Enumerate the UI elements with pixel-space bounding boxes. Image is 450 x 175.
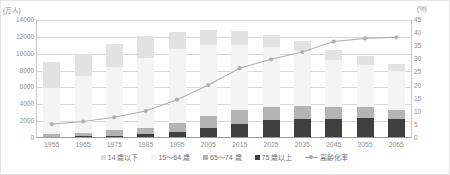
- plot-area: 02000400060008000100001200014000 0510152…: [36, 20, 412, 138]
- bar-column: [231, 31, 248, 138]
- bar-column: [388, 64, 405, 138]
- legend-75-over[interactable]: 75 歳以上: [255, 152, 293, 162]
- x-tick-label: 1955: [35, 141, 69, 148]
- x-tick-label: 2055: [348, 141, 382, 148]
- legend-under-14[interactable]: 14 歳以下: [101, 152, 139, 162]
- x-axis-baseline: [36, 137, 412, 138]
- bar-segment-15-64: [106, 67, 123, 131]
- bar-segment-65-74: [169, 123, 186, 132]
- right-tick-label: 30: [414, 55, 444, 62]
- bar-segment-75-over: [388, 119, 405, 138]
- bar-segment-15-64: [357, 65, 374, 107]
- bar-segment-65-74: [325, 107, 342, 119]
- bar-segment-75-over: [263, 120, 280, 138]
- legend-15-64[interactable]: 15〜64 歳: [151, 152, 190, 162]
- x-tick-label: 1985: [129, 141, 163, 148]
- left-tick-label: 8000: [2, 67, 34, 74]
- bar-segment-15-64: [388, 71, 405, 109]
- bar-column: [75, 54, 92, 138]
- left-tick-label: 2000: [2, 117, 34, 124]
- legend-65-74[interactable]: 65〜74 歳: [203, 152, 242, 162]
- x-tick-label: 2015: [223, 141, 257, 148]
- bar-segment-under-14: [294, 41, 311, 52]
- bar-segment-65-74: [357, 107, 374, 118]
- right-tick-label: 15: [414, 95, 444, 102]
- bar-segment-65-74: [231, 110, 248, 125]
- bar-segment-under-14: [263, 35, 280, 47]
- bar-segment-75-over: [357, 118, 374, 138]
- bar-segment-15-64: [294, 51, 311, 106]
- bar-segment-under-14: [43, 62, 60, 87]
- bar-segment-15-64: [231, 45, 248, 110]
- bar-segment-65-74: [200, 116, 217, 128]
- y-axis-left-spine: [36, 20, 37, 138]
- left-tick-label: 0: [2, 134, 34, 141]
- bar-column: [137, 36, 154, 138]
- x-tick-label: 2065: [379, 141, 413, 148]
- bar-segment-under-14: [169, 32, 186, 49]
- legend-label: 75 歳以上: [262, 152, 293, 162]
- bar-column: [263, 35, 280, 138]
- x-tick-label: 2005: [191, 141, 225, 148]
- right-tick-label: 25: [414, 68, 444, 75]
- bar-segment-under-14: [388, 64, 405, 72]
- bar-segment-under-14: [325, 50, 342, 60]
- right-tick-label: 45: [414, 16, 444, 23]
- legend-swatch-icon: [203, 155, 208, 160]
- bar-segment-under-14: [106, 44, 123, 67]
- legend-swatch-icon: [151, 155, 156, 160]
- bar-segment-75-over: [294, 119, 311, 138]
- bar-segment-75-over: [231, 124, 248, 138]
- right-tick-label: 35: [414, 42, 444, 49]
- bar-segment-15-64: [169, 49, 186, 123]
- right-tick-label: 0: [414, 134, 444, 141]
- left-tick-label: 14000: [2, 16, 34, 23]
- left-tick-label: 6000: [2, 83, 34, 90]
- legend-label: 高齢化率: [320, 152, 348, 162]
- bar-segment-65-74: [388, 110, 405, 120]
- gridline: [36, 20, 412, 21]
- bar-segment-15-64: [137, 58, 154, 128]
- bar-column: [294, 41, 311, 138]
- left-tick-label: 4000: [2, 100, 34, 107]
- bar-segment-under-14: [75, 54, 92, 76]
- bar-column: [357, 56, 374, 138]
- bar-segment-65-74: [294, 106, 311, 119]
- x-tick-label: 2025: [254, 141, 288, 148]
- legend-line-marker-icon: [305, 155, 318, 160]
- legend-swatch-icon: [101, 155, 106, 160]
- bar-segment-under-14: [137, 36, 154, 58]
- bar-segment-15-64: [325, 60, 342, 107]
- gridline: [36, 37, 412, 38]
- bar-column: [43, 62, 60, 138]
- bar-column: [169, 32, 186, 138]
- bar-segment-under-14: [357, 56, 374, 65]
- right-tick-label: 5: [414, 121, 444, 128]
- right-tick-label: 40: [414, 29, 444, 36]
- legend-swatch-icon: [255, 155, 260, 160]
- legend-label: 15〜64 歳: [158, 152, 190, 162]
- gridline: [36, 54, 412, 55]
- bar-column: [106, 44, 123, 138]
- left-tick-label: 10000: [2, 50, 34, 57]
- bar-segment-15-64: [200, 45, 217, 116]
- chart-legend: 14 歳以下15〜64 歳65〜74 歳75 歳以上高齢化率: [0, 152, 449, 162]
- left-tick-label: 12000: [2, 33, 34, 40]
- bar-segment-15-64: [263, 47, 280, 107]
- bar-column: [200, 30, 217, 138]
- x-tick-label: 2045: [317, 141, 351, 148]
- bar-segment-under-14: [231, 31, 248, 44]
- legend-label: 14 歳以下: [108, 152, 139, 162]
- right-tick-label: 10: [414, 108, 444, 115]
- bar-segment-65-74: [263, 107, 280, 120]
- left-axis-unit-label: (万人): [3, 5, 21, 15]
- x-tick-label: 1995: [160, 141, 194, 148]
- legend-label: 65〜74 歳: [210, 152, 242, 162]
- x-tick-label: 1965: [66, 141, 100, 148]
- bar-segment-15-64: [75, 76, 92, 133]
- legend-aging-rate[interactable]: 高齢化率: [305, 152, 348, 162]
- bar-column: [325, 50, 342, 138]
- bar-segment-75-over: [325, 119, 342, 138]
- aging-rate-polyline: [52, 37, 397, 124]
